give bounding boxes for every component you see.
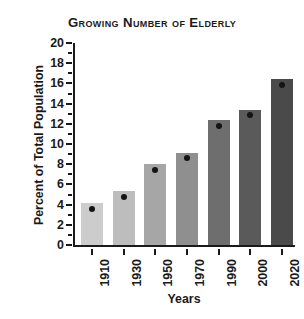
plot-area: 02468101214161820 1910193019501970199020…	[73, 43, 295, 247]
y-tick-major	[66, 62, 72, 64]
y-tick-label: 18	[50, 56, 64, 70]
bar-value-dot	[184, 155, 190, 161]
x-tick	[281, 249, 283, 255]
y-tick-major	[66, 204, 72, 206]
y-tick-major	[66, 42, 72, 44]
y-tick-label: 16	[50, 76, 64, 90]
x-tick	[249, 249, 251, 255]
x-tick	[91, 249, 93, 255]
chart-title: Growing Number of Elderly	[0, 15, 304, 30]
bar	[208, 120, 230, 245]
y-tick-minor	[68, 133, 72, 135]
bar	[113, 191, 135, 245]
bar-value-dot	[121, 194, 127, 200]
x-tick-label: 1990	[225, 259, 239, 287]
x-tick-label: 1950	[161, 259, 175, 287]
y-tick-label: 0	[57, 238, 64, 252]
bar	[176, 153, 198, 245]
y-tick-label: 8	[57, 157, 64, 171]
y-tick-label: 14	[50, 97, 64, 111]
bar	[271, 79, 293, 245]
y-tick-major	[66, 183, 72, 185]
x-tick	[123, 249, 125, 255]
bar-value-dot	[216, 123, 222, 129]
x-tick	[186, 249, 188, 255]
bar	[239, 110, 261, 245]
y-tick-minor	[68, 93, 72, 95]
y-tick-minor	[68, 194, 72, 196]
x-tick-label: 2000	[256, 259, 270, 287]
x-axis-line	[73, 245, 295, 247]
y-tick-minor	[68, 72, 72, 74]
bar-value-dot	[247, 112, 253, 118]
x-tick-label: 1930	[130, 259, 144, 287]
y-tick-label: 10	[50, 137, 64, 151]
x-tick	[154, 249, 156, 255]
y-tick-label: 6	[57, 177, 64, 191]
y-tick-label: 4	[57, 198, 64, 212]
bar-value-dot	[279, 82, 285, 88]
x-tick-label: 2020	[288, 259, 302, 287]
y-tick-minor	[68, 214, 72, 216]
y-tick-major	[66, 143, 72, 145]
y-axis-title: Percent of Total Population	[32, 45, 46, 245]
y-tick-minor	[68, 52, 72, 54]
x-axis-title: Years	[73, 292, 295, 306]
x-tick	[218, 249, 220, 255]
y-tick-major	[66, 123, 72, 125]
y-tick-major	[66, 103, 72, 105]
y-tick-minor	[68, 153, 72, 155]
bar-value-dot	[152, 167, 158, 173]
bar	[144, 164, 166, 245]
x-tick-label: 1910	[98, 259, 112, 287]
bar-chart-figure: Growing Number of Elderly Percent of Tot…	[0, 0, 304, 319]
y-tick-major	[66, 224, 72, 226]
y-axis-line	[73, 43, 75, 247]
x-tick-label: 1970	[193, 259, 207, 287]
y-tick-minor	[68, 173, 72, 175]
y-tick-major	[66, 82, 72, 84]
y-tick-minor	[68, 113, 72, 115]
bar-value-dot	[89, 206, 95, 212]
y-tick-major	[66, 163, 72, 165]
y-tick-label: 12	[50, 117, 64, 131]
y-tick-label: 2	[57, 218, 64, 232]
y-tick-major	[66, 244, 72, 246]
bar	[81, 203, 103, 245]
y-tick-label: 20	[50, 36, 64, 50]
y-tick-minor	[68, 234, 72, 236]
